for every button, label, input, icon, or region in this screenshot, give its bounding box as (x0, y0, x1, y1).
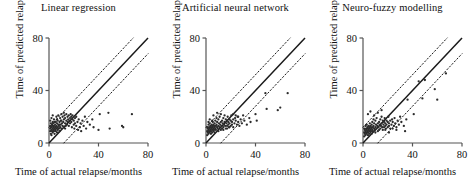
data-point (228, 122, 230, 124)
data-point (237, 121, 239, 123)
data-point (222, 117, 224, 119)
data-point (49, 120, 51, 122)
data-point (405, 118, 407, 120)
data-point (378, 121, 380, 123)
data-point (92, 126, 94, 128)
data-point (377, 112, 379, 114)
data-point (241, 122, 243, 124)
data-point (99, 113, 101, 115)
data-point (225, 122, 227, 124)
data-point (64, 117, 66, 119)
data-point (374, 131, 376, 133)
data-point (399, 116, 401, 118)
data-point (392, 121, 394, 123)
data-point (79, 122, 81, 124)
y-tick-label: 40 (33, 85, 44, 96)
data-point (379, 118, 381, 120)
data-point (235, 114, 237, 116)
data-point (207, 121, 209, 123)
y-tick-label: 0 (38, 138, 43, 149)
data-point (243, 120, 245, 122)
y-tick-label: 80 (190, 33, 201, 44)
data-point (371, 133, 373, 135)
data-point (216, 121, 218, 123)
data-point (397, 120, 399, 122)
data-point (277, 109, 279, 111)
scatter-panel: Linear regressionTime of predicted relap… (0, 0, 157, 185)
data-point (238, 125, 240, 127)
data-point (223, 121, 225, 123)
scatter-panel: Artificial neural networkTime of predict… (157, 0, 314, 185)
data-point (84, 116, 86, 118)
data-point (59, 117, 61, 119)
data-point (388, 131, 390, 133)
data-point (367, 113, 369, 115)
data-point (234, 117, 236, 119)
data-point (387, 116, 389, 118)
x-tick-label: 40 (250, 149, 261, 160)
data-point (76, 121, 78, 123)
data-point (379, 127, 381, 129)
data-point (81, 120, 83, 122)
data-point (55, 116, 57, 118)
data-point (212, 114, 214, 116)
data-point (68, 125, 70, 127)
data-point (233, 122, 235, 124)
data-point (217, 130, 219, 132)
data-point (97, 129, 99, 131)
data-point (215, 123, 217, 125)
data-point (403, 125, 405, 127)
data-point (85, 127, 87, 129)
data-point (380, 109, 382, 111)
data-point (86, 121, 88, 123)
data-point (287, 92, 289, 94)
data-point (60, 120, 62, 122)
data-point (70, 121, 72, 123)
data-point (227, 116, 229, 118)
data-point (421, 97, 423, 99)
data-point (392, 127, 394, 129)
data-point (215, 129, 217, 131)
scatter-panel: Neuro-fuzzy modellingTime of predicted r… (314, 0, 471, 185)
data-point (256, 120, 258, 122)
data-point (400, 121, 402, 123)
data-point (226, 127, 228, 129)
data-point (369, 122, 371, 124)
data-point (237, 116, 239, 118)
data-point (223, 114, 225, 116)
data-point (77, 129, 79, 131)
data-point (222, 126, 224, 128)
data-point (398, 123, 400, 125)
data-point (265, 108, 267, 110)
data-point (418, 80, 420, 82)
data-point (64, 127, 66, 129)
data-point (65, 113, 67, 115)
x-tick-label: 0 (203, 149, 208, 160)
y-tick-label: 80 (33, 33, 44, 44)
data-point (62, 121, 64, 123)
data-point (53, 118, 55, 120)
data-point (242, 114, 244, 116)
data-point (389, 127, 391, 129)
data-point (71, 126, 73, 128)
data-point (66, 121, 68, 123)
data-point (75, 116, 77, 118)
data-point (382, 129, 384, 131)
data-point (80, 130, 82, 132)
data-point (70, 113, 72, 115)
data-point (264, 92, 266, 94)
data-point (218, 126, 220, 128)
plot-area: 0408004080 (314, 0, 471, 185)
data-point (89, 123, 91, 125)
data-point (445, 72, 447, 74)
data-point (390, 123, 392, 125)
y-tick-label: 80 (347, 33, 358, 44)
data-point (63, 114, 65, 116)
data-point (232, 126, 234, 128)
data-point (220, 113, 222, 115)
data-point (50, 117, 52, 119)
data-point (57, 114, 59, 116)
data-point (375, 117, 377, 119)
data-point (254, 113, 256, 115)
data-point (393, 125, 395, 127)
